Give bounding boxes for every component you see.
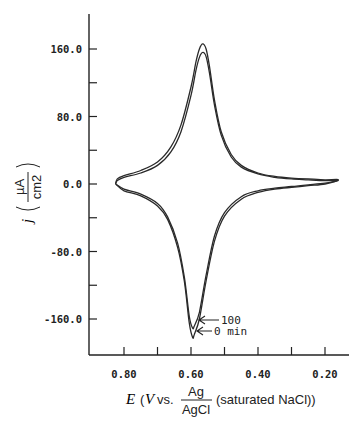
- y-tick-label: -160.0: [44, 313, 82, 325]
- x-label-vs: vs.: [157, 392, 174, 407]
- y-tick-label: 160.0: [50, 43, 82, 55]
- y-label-open-paren: [16, 207, 40, 210]
- x-label-rest: (saturated NaCl)): [216, 392, 316, 407]
- x-label-unit: V: [145, 391, 156, 407]
- y-label-var: j: [19, 219, 35, 225]
- y-tick-label: 0.0: [63, 178, 82, 190]
- x-label-frac-den: AgCl: [182, 402, 210, 417]
- cv-curve-0-min: [116, 44, 339, 338]
- annotation-0-min: 0 min: [214, 325, 247, 338]
- y-label-numerator: µA: [12, 179, 27, 195]
- cyclic-voltammogram-chart: 160.080.00.0-80.0-160.0 0.800.600.400.20…: [0, 0, 361, 427]
- x-label-frac-num: Ag: [188, 384, 204, 399]
- cv-curve-100-min: [116, 52, 339, 329]
- x-tick-label: 0.80: [111, 368, 136, 380]
- y-tick-label: 80.0: [57, 111, 82, 123]
- y-label-close-paren: [16, 164, 40, 167]
- y-label-denominator: cm2: [29, 175, 44, 200]
- x-tick-label: 0.40: [245, 368, 270, 380]
- y-tick-label: -80.0: [50, 246, 82, 258]
- arrow-100-icon: [199, 316, 219, 324]
- x-tick-label: 0.20: [312, 368, 337, 380]
- x-label-var: E: [125, 391, 135, 407]
- arrow-0min-icon: [197, 327, 212, 335]
- x-tick-label: 0.60: [178, 368, 203, 380]
- y-axis-label: j µA cm2: [12, 164, 44, 225]
- x-ticks: 0.800.600.400.20: [111, 347, 337, 380]
- x-axis-label: E ( V vs. Ag AgCl (saturated NaCl)): [125, 384, 316, 417]
- cv-curves: [116, 44, 339, 338]
